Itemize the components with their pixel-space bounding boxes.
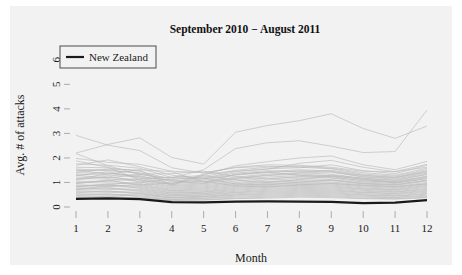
- legend-label-new-zealand: New Zealand: [89, 51, 148, 63]
- x-axis-tick-label: 3: [137, 222, 143, 234]
- x-axis-tick-label: 7: [265, 222, 271, 234]
- x-axis-tick-label: 12: [422, 222, 433, 234]
- y-axis-tick-label: 4: [50, 106, 62, 112]
- y-axis-title: Avg. # of attacks: [13, 94, 27, 175]
- y-axis: 0123456: [50, 57, 70, 210]
- x-axis-tick-label: 1: [73, 222, 79, 234]
- x-axis-tick-label: 6: [233, 222, 239, 234]
- x-axis-tick-label: 10: [358, 222, 370, 234]
- y-axis-tick-label: 3: [50, 130, 62, 136]
- x-axis-title: Month: [235, 251, 267, 265]
- background-series-line: [76, 110, 427, 178]
- chart-title: September 2010 − August 2011: [170, 23, 321, 36]
- background-series-line: [76, 114, 427, 164]
- x-axis-tick-label: 5: [201, 222, 207, 234]
- y-axis-tick-label: 1: [50, 180, 62, 186]
- x-axis-tick-label: 9: [329, 222, 335, 234]
- background-series-group: [76, 110, 427, 201]
- x-axis-tick-label: 2: [105, 222, 111, 234]
- spaghetti-line-chart: 123456789101112 0123456 September 2010 −…: [0, 0, 462, 275]
- x-axis-tick-label: 8: [297, 222, 303, 234]
- x-axis-tick-label: 4: [169, 222, 175, 234]
- x-axis-tick-label: 11: [390, 222, 401, 234]
- y-axis-tick-label: 0: [50, 204, 62, 210]
- y-axis-tick-label: 5: [50, 81, 62, 87]
- y-axis-tick-label: 2: [50, 155, 62, 161]
- legend[interactable]: New Zealand: [60, 46, 156, 68]
- figure-canvas: 123456789101112 0123456 September 2010 −…: [0, 0, 462, 275]
- x-axis: 123456789101112: [73, 211, 432, 234]
